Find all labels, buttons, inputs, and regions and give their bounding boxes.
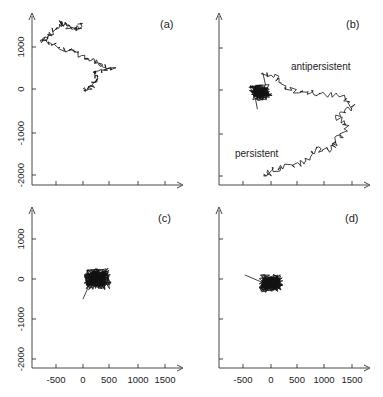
panel-label: (a) — [160, 18, 173, 30]
panel-a: 1000 0 -1000 -2000 (a) — [15, 13, 183, 188]
figure: 1000 0 -1000 -2000 (a) (b) antipersisten… — [0, 0, 383, 397]
y-tick-label: 0 — [15, 276, 26, 281]
panel-d: -500 0 500 1000 1500 (d) — [216, 207, 370, 385]
y-ticks — [32, 239, 36, 359]
panel-b: (b) antipersistent persistent — [216, 13, 370, 188]
trajectory-a — [40, 21, 116, 92]
y-tick-label: -2000 — [15, 347, 26, 371]
trajectory-d — [245, 274, 283, 292]
y-tick-label: -1000 — [15, 121, 26, 145]
x-ticks — [243, 364, 352, 368]
x-ticks — [56, 181, 165, 185]
x-tick-label: 0 — [268, 374, 273, 385]
y-tick-labels: 1000 0 -1000 -2000 — [15, 228, 26, 371]
y-tick-label: 1000 — [15, 36, 26, 57]
panel-a-axes — [32, 16, 181, 185]
trajectory-c — [83, 268, 111, 299]
panel-d-axes — [219, 210, 368, 368]
y-tick-label: 0 — [15, 86, 26, 91]
trajectory-b — [249, 73, 355, 176]
x-tick-label: 1500 — [154, 374, 175, 385]
x-tick-label: 500 — [101, 374, 117, 385]
annotation-persistent: persistent — [235, 148, 279, 159]
y-ticks — [32, 47, 36, 175]
panel-label: (d) — [345, 212, 358, 224]
x-tick-label: 1000 — [313, 374, 334, 385]
x-tick-labels: -500 0 500 1000 1500 — [46, 374, 175, 385]
panel-b-axes — [219, 16, 368, 185]
panel-label: (b) — [346, 18, 359, 30]
panel-label: (c) — [158, 212, 171, 224]
x-tick-label: -500 — [233, 374, 252, 385]
y-tick-label: 1000 — [15, 228, 26, 249]
x-tick-label: 1500 — [341, 374, 362, 385]
x-ticks — [243, 181, 352, 185]
y-tick-labels: 1000 0 -1000 -2000 — [15, 36, 26, 187]
panel-c: 1000 0 -1000 -2000 -500 0 500 1000 1500 … — [15, 207, 183, 385]
y-tick-label: -2000 — [15, 163, 26, 187]
y-ticks — [219, 48, 223, 176]
annotation-antipersistent: antipersistent — [291, 61, 351, 72]
panel-c-axes — [32, 210, 181, 368]
y-ticks — [219, 239, 223, 359]
x-tick-label: -500 — [46, 374, 65, 385]
x-ticks — [56, 364, 165, 368]
x-tick-label: 1000 — [127, 374, 148, 385]
x-tick-labels: -500 0 500 1000 1500 — [233, 374, 362, 385]
x-tick-label: 0 — [80, 374, 85, 385]
y-tick-label: -1000 — [15, 307, 26, 331]
x-tick-label: 500 — [289, 374, 305, 385]
